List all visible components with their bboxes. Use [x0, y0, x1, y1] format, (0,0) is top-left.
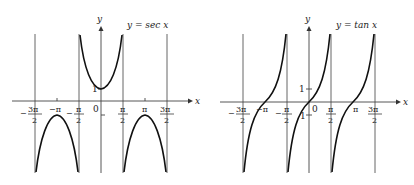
sec-branch-left [36, 115, 78, 172]
label-pi: π [76, 105, 81, 114]
label-2: 2 [76, 116, 81, 125]
label-3pi: 3π [160, 105, 170, 114]
graph-title: y = sec x [126, 20, 168, 30]
x-axis-label: x [403, 97, 408, 107]
label-neg-sign: − [20, 109, 27, 118]
label-neg-pi: −π [256, 105, 268, 114]
label-2: 2 [240, 116, 245, 125]
y-axis-label: y [304, 14, 311, 24]
label-neg-sign: − [275, 109, 282, 118]
label-pi: π [353, 105, 358, 114]
tan-branch-left [244, 34, 286, 172]
tan-branch-right [332, 34, 374, 172]
x-axis-arrow-icon [396, 100, 401, 105]
label-2: 2 [32, 116, 37, 125]
label-3pi: 3π [236, 105, 246, 114]
label-neg-sign: − [66, 109, 73, 118]
label-2: 2 [120, 116, 125, 125]
label-1: 1 [92, 84, 98, 94]
sec-graph: x y y = sec x 1 0 − 3π 2 −π − π 2 π [12, 14, 200, 173]
label-pi: π [328, 105, 333, 114]
y-axis-arrow-icon [99, 26, 104, 31]
label-neg-sign: − [228, 109, 235, 118]
label-1: 1 [299, 84, 305, 94]
graphs-canvas: x y y = sec x 1 0 − 3π 2 −π − π 2 π [0, 0, 414, 185]
label-2: 2 [328, 116, 333, 125]
sec-branch-right [124, 115, 166, 172]
label-pi: π [142, 105, 147, 114]
label-3pi: 3π [28, 105, 38, 114]
label-origin: 0 [312, 104, 318, 114]
label-origin: 0 [93, 104, 99, 114]
y-axis-label: y [96, 14, 103, 24]
label-2: 2 [164, 116, 169, 125]
label-pi: π [120, 105, 125, 114]
graph-title: y = tan x [335, 20, 377, 30]
label-2: 2 [372, 116, 377, 125]
tan-graph: x y y = tan x 1 0 1 − 3π 2 −π − π 2 π 2 [220, 14, 408, 173]
label-3pi: 3π [368, 105, 378, 114]
label-pi: π [284, 105, 289, 114]
y-axis-arrow-icon [307, 26, 312, 31]
label-2: 2 [284, 116, 289, 125]
x-axis-arrow-icon [188, 99, 193, 104]
label-neg-pi: −π [49, 105, 61, 114]
label-neg-1: 1 [300, 111, 306, 121]
x-axis-label: x [195, 96, 200, 106]
